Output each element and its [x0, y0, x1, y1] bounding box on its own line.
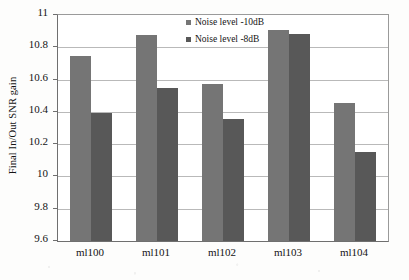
y-axis-tick-label: 11 — [0, 6, 48, 18]
legend: Noise level -10dBNoise level -8dB — [186, 17, 264, 44]
x-axis-tick-label: ml102 — [189, 246, 255, 258]
gridline — [58, 80, 388, 81]
y-axis-tick-label: 9.8 — [0, 200, 48, 212]
bar — [136, 35, 157, 241]
bar — [223, 119, 244, 241]
legend-item: Noise level -8dB — [186, 34, 264, 44]
bar — [157, 88, 178, 241]
bar — [70, 56, 91, 241]
bar — [91, 113, 112, 241]
x-axis-tick-label: ml103 — [255, 246, 321, 258]
plot-area — [57, 14, 389, 242]
gridline — [58, 47, 388, 48]
legend-label: Noise level -8dB — [195, 34, 259, 44]
legend-label: Noise level -10dB — [195, 17, 264, 27]
y-axis-tick-label: 10.2 — [0, 135, 48, 147]
x-axis-tick-label: ml100 — [57, 246, 123, 258]
x-axis-tick-label: ml101 — [123, 246, 189, 258]
bar — [334, 103, 355, 241]
scan-artifact — [0, 258, 409, 280]
chart-figure: Final In/Out SNR gain 1110.810.610.410.2… — [0, 0, 409, 280]
legend-swatch-icon — [186, 37, 191, 42]
x-axis-tick-label: ml104 — [321, 246, 387, 258]
y-axis-tick-label: 10.8 — [0, 38, 48, 50]
y-axis-tick-label: 10 — [0, 167, 48, 179]
y-axis-tick-label: 9.6 — [0, 232, 48, 244]
y-axis-title-text: Final In/Out SNR gain — [8, 76, 19, 173]
bar — [202, 84, 223, 241]
legend-swatch-icon — [186, 20, 191, 25]
bar — [268, 30, 289, 241]
y-axis-tick-label: 10.6 — [0, 71, 48, 83]
bar — [355, 152, 376, 241]
y-axis-tick-label: 10.4 — [0, 103, 48, 115]
bar — [289, 34, 310, 241]
legend-item: Noise level -10dB — [186, 17, 264, 27]
